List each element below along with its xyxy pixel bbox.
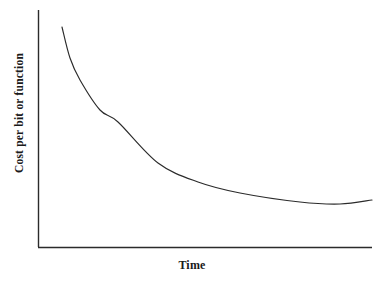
- cost-curve-line: [62, 27, 372, 204]
- plot-canvas: [0, 0, 376, 286]
- x-axis-label: Time: [178, 259, 205, 271]
- y-axis-label: Cost per bit or function: [14, 53, 26, 173]
- chart-figure: Cost per bit or function Time: [0, 0, 376, 286]
